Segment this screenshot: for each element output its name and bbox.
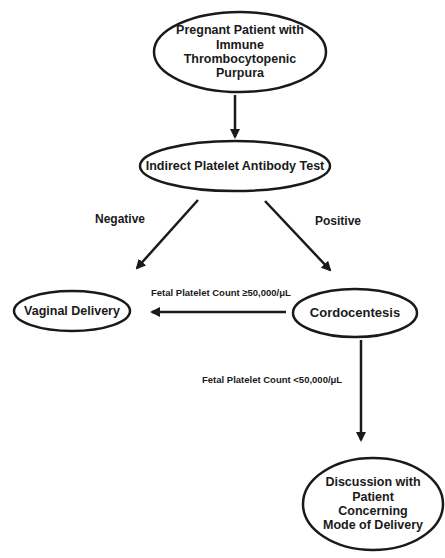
node-discussion-line-1: Discussion with bbox=[325, 475, 420, 489]
edge-label-low-count: Fetal Platelet Count <50,000/μL bbox=[202, 374, 342, 385]
node-cordo-label: Cordocentesis bbox=[310, 306, 400, 321]
node-test: Indirect Platelet Antibody Test bbox=[142, 152, 328, 180]
node-vaginal: Vaginal Delivery bbox=[16, 298, 128, 324]
arrow-negative bbox=[137, 200, 198, 268]
node-discussion: Discussion with Patient Concerning Mode … bbox=[306, 462, 440, 546]
node-discussion-line-4: Mode of Delivery bbox=[323, 518, 423, 532]
node-start-line-2: Immune Thrombocytopenic bbox=[160, 38, 320, 67]
node-start-line-1: Pregnant Patient with bbox=[176, 23, 304, 37]
node-start: Pregnant Patient with Immune Thrombocyto… bbox=[160, 18, 320, 86]
node-cordo: Cordocentesis bbox=[296, 299, 414, 327]
node-start-line-3: Purpura bbox=[216, 66, 264, 80]
arrow-positive bbox=[265, 201, 330, 270]
node-test-label: Indirect Platelet Antibody Test bbox=[146, 159, 325, 173]
node-discussion-line-2: Patient bbox=[352, 490, 394, 504]
edge-label-positive: Positive bbox=[315, 214, 361, 228]
node-vaginal-label: Vaginal Delivery bbox=[24, 304, 120, 318]
node-discussion-line-3: Concerning bbox=[338, 504, 407, 518]
edge-label-negative: Negative bbox=[95, 212, 145, 226]
edge-label-high-count: Fetal Platelet Count ≥50,000/μL bbox=[151, 287, 291, 298]
